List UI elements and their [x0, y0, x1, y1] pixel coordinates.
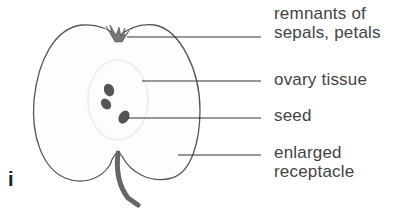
label-line: enlarged: [274, 143, 354, 162]
label-line: remnants of: [274, 4, 381, 23]
label-enlarged-receptacle: enlarged receptacle: [274, 143, 354, 181]
panel-letter: i: [8, 168, 14, 191]
label-line: receptacle: [274, 162, 354, 181]
label-seed: seed: [274, 106, 312, 125]
label-line: seed: [274, 106, 312, 125]
label-ovary-tissue: ovary tissue: [274, 70, 367, 89]
label-line: sepals, petals: [274, 23, 381, 42]
label-line: ovary tissue: [274, 70, 367, 89]
label-sepals-petals: remnants of sepals, petals: [274, 4, 381, 42]
